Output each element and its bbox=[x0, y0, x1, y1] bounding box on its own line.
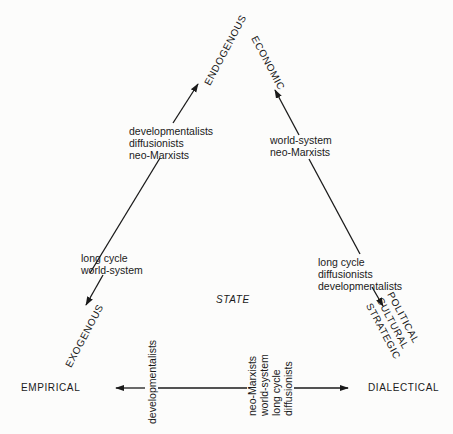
annotation-item: long cycle bbox=[318, 256, 402, 268]
annotation-item: diffusionists bbox=[318, 268, 402, 280]
annotation-item: world-system bbox=[81, 264, 143, 276]
annotation-item: developmentalists bbox=[318, 280, 402, 292]
annotation-item: diffusionists bbox=[129, 137, 213, 149]
annotation-toward-economic: world-system neo-Marxists bbox=[270, 134, 332, 158]
arrow-to-endogenous-upper bbox=[173, 84, 198, 123]
annotation-item: world-system bbox=[258, 354, 270, 416]
arrow-to-exogenous bbox=[86, 275, 103, 305]
annotation-item: neo-Marxists bbox=[270, 146, 332, 158]
annotation-toward-exogenous: long cycle world-system bbox=[81, 252, 143, 276]
annotation-item: diffusionists bbox=[282, 354, 294, 416]
annotation-toward-empirical: developmentalists bbox=[146, 340, 158, 424]
annotation-item: neo-Marxists bbox=[129, 149, 213, 161]
annotation-item: world-system bbox=[270, 134, 332, 146]
annotation-item: developmentalists bbox=[129, 125, 213, 137]
vertex-dialectical: DIALECTICAL bbox=[368, 382, 439, 394]
arrow-line-economic-lower bbox=[309, 159, 360, 254]
annotation-toward-dialectical: neo-Marxists world-system long cycle dif… bbox=[246, 354, 294, 416]
annotation-item: long cycle bbox=[81, 252, 143, 264]
center-label-state: STATE bbox=[216, 294, 250, 306]
annotation-toward-endogenous: developmentalists diffusionists neo-Marx… bbox=[129, 125, 213, 161]
annotation-toward-political: long cycle diffusionists developmentalis… bbox=[318, 256, 402, 292]
vertex-empirical: EMPIRICAL bbox=[21, 382, 80, 394]
arrow-to-economic bbox=[275, 90, 299, 135]
diagram-lines bbox=[0, 0, 453, 434]
annotation-item: neo-Marxists bbox=[246, 354, 258, 416]
annotation-item: long cycle bbox=[270, 354, 282, 416]
